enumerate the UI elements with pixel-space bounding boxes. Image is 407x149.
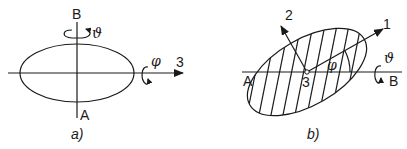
label-theta-b: ϑ — [384, 50, 394, 66]
rotation-arrow-phi-icon — [142, 67, 148, 84]
label-3-center: 3 — [302, 74, 310, 90]
label-3-a: 3 — [176, 54, 184, 70]
panel-b: A B 3 1 2 φ ϑ b) — [233, 7, 402, 142]
label-b-top: B — [72, 6, 81, 22]
label-phi-b: φ — [327, 57, 337, 73]
panel-a: B ϑ φ 3 A a) — [8, 6, 184, 142]
axis-1 — [307, 29, 383, 72]
angle-arc-phi — [345, 51, 350, 72]
label-axis-1: 1 — [383, 16, 391, 32]
diagram-canvas: B ϑ φ 3 A a) A B 3 1 — [0, 0, 407, 149]
label-b-right: B — [389, 73, 398, 89]
rotation-arrow-theta-b-icon — [375, 66, 381, 83]
label-theta-a: ϑ — [92, 25, 102, 41]
label-axis-2: 2 — [285, 7, 293, 23]
label-phi-a: φ — [151, 53, 161, 69]
axis-2 — [281, 26, 307, 72]
label-a-bottom: A — [80, 107, 90, 123]
caption-b: b) — [307, 126, 319, 142]
label-a-left: A — [243, 73, 253, 89]
caption-a: a) — [71, 126, 83, 142]
